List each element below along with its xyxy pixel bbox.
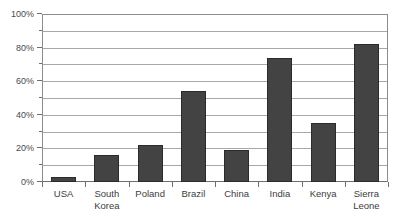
y-axis-tick-label: 20% xyxy=(16,144,34,153)
bar-chart: 0%20%40%60%80%100% USASouth KoreaPolandB… xyxy=(0,0,397,224)
x-axis-category-label: India xyxy=(258,188,301,212)
x-axis-tick xyxy=(172,182,173,187)
gridlines xyxy=(43,15,387,181)
gridline xyxy=(43,165,387,166)
x-axis-tick xyxy=(302,182,303,187)
x-axis-category-label: Sierra Leone xyxy=(345,188,388,212)
x-axis-tick xyxy=(42,182,43,187)
x-axis-labels: USASouth KoreaPolandBrazilChinaIndiaKeny… xyxy=(42,188,388,212)
x-axis-tick xyxy=(215,182,216,187)
plot-area xyxy=(42,14,388,182)
x-axis-category-label: USA xyxy=(42,188,85,212)
x-axis-tick xyxy=(345,182,346,187)
x-axis-category-label: China xyxy=(215,188,258,212)
y-axis-tick-label: 100% xyxy=(11,10,34,19)
gridline xyxy=(43,64,387,65)
x-axis-tick xyxy=(129,182,130,187)
x-axis-tick xyxy=(85,182,86,187)
gridline xyxy=(43,31,387,32)
gridline xyxy=(43,48,387,49)
gridline xyxy=(43,98,387,99)
y-axis-tick-label: 40% xyxy=(16,110,34,119)
x-axis-category-label: Brazil xyxy=(172,188,215,212)
x-axis-category-label: South Korea xyxy=(85,188,128,212)
x-axis-ticks xyxy=(42,182,388,187)
y-axis-tick-label: 0% xyxy=(21,178,34,187)
x-axis-category-label: Kenya xyxy=(302,188,345,212)
gridline xyxy=(43,148,387,149)
gridline xyxy=(43,132,387,133)
y-axis: 0%20%40%60%80%100% xyxy=(0,14,42,182)
gridline xyxy=(43,81,387,82)
x-axis-tick xyxy=(388,182,389,187)
y-axis-tick-label: 80% xyxy=(16,43,34,52)
x-axis-category-label: Poland xyxy=(129,188,172,212)
y-axis-tick-label: 60% xyxy=(16,77,34,86)
gridline xyxy=(43,115,387,116)
x-axis-tick xyxy=(258,182,259,187)
